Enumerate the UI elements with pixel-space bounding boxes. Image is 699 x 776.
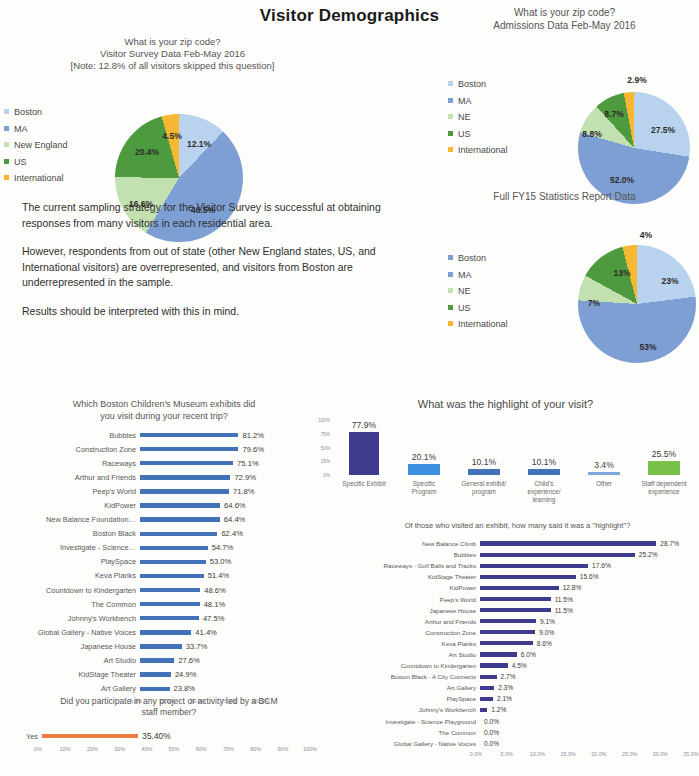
narrative-paragraph-1: The current sampling strategy for the Vi… <box>22 200 422 231</box>
bar-row: Bubbles25.2% <box>336 549 699 560</box>
vertical-bar-column: 20.1% <box>394 452 454 475</box>
category-label-line: experience <box>634 488 694 496</box>
pie-survey-value-us: 20.4% <box>135 147 159 157</box>
x-axis-tick: 100% <box>303 746 317 752</box>
pie-fy15-value-boston: 23% <box>661 276 678 286</box>
x-axis-tick: 20% <box>87 746 98 752</box>
vertical-bar <box>349 432 379 475</box>
bar-category-label: Investigate - Science Playground <box>336 718 480 725</box>
pie-admissions-value-boston: 27.5% <box>651 125 675 135</box>
bar-value-label: 48.6% <box>204 586 226 595</box>
bar-category-label: Countdown to Kindergarten <box>336 662 480 669</box>
bar-track: 9.1% <box>480 618 695 625</box>
bar-value-label: 9.1% <box>540 618 555 625</box>
legend-item-international: International <box>448 142 508 159</box>
legend-item-us: US <box>448 300 508 317</box>
bar-value-label: 64.4% <box>224 515 246 524</box>
bar-value-label: 2.3% <box>498 684 513 691</box>
bar-category-label: KidStage Theater <box>336 573 480 580</box>
bar-value-label: 79.6% <box>242 445 264 454</box>
bar-row: Construction Zone79.6% <box>14 442 314 456</box>
x-axis-tick: 80% <box>250 746 261 752</box>
bar-value-label: 33.7% <box>186 642 208 651</box>
x-axis-tick: 50% <box>169 746 180 752</box>
bar-category-label: The Common <box>336 729 480 736</box>
vertical-bar-value-label: 77.9% <box>334 420 394 430</box>
bar-row: New Balance Foundation…64.4% <box>14 513 314 527</box>
bar-value-label: 51.4% <box>208 571 230 580</box>
bar-row: Yes35.40% <box>14 728 324 744</box>
bar-fill <box>140 574 204 578</box>
bar-value-label: 47.5% <box>203 614 225 623</box>
highlight-exhibits-title-text: Of those who visited an exhibit, how man… <box>405 521 631 530</box>
bar-category-label: Johnny's Workbench <box>14 614 140 623</box>
legend-label-ma: MA <box>458 270 472 280</box>
bar-track: 72.9% <box>140 473 264 482</box>
legend-item-ne: NE <box>448 109 508 126</box>
bar-category-label: Peep's World <box>14 487 140 496</box>
category-label-line: General exhibit/ <box>454 480 514 488</box>
y-axis-tick: 25% <box>321 459 330 464</box>
bar-row: PlaySpace2.1% <box>336 693 699 704</box>
bar-value-label: 8.6% <box>537 640 552 647</box>
legend-swatch-ma <box>448 272 453 277</box>
pie-survey-legend: Boston MA New England US International <box>4 104 68 187</box>
bar-fill <box>480 652 517 656</box>
legend-swatch-ne <box>448 114 453 119</box>
bar-row: KidPower12.8% <box>336 582 699 593</box>
bar-row: Japanese House11.5% <box>336 605 699 616</box>
legend-item-new-england: New England <box>4 137 68 154</box>
bar-track: 2.7% <box>480 673 695 680</box>
category-label-line: experience/ <box>514 488 574 496</box>
bar-fill <box>480 586 559 590</box>
bar-fill <box>140 616 199 620</box>
bar-track: 2.3% <box>480 684 695 691</box>
pie-fy15-value-ne: 7% <box>588 298 600 308</box>
pie-admissions-title-line2: Admissions Data Feb-May 2016 <box>430 19 699 32</box>
bar-fill <box>140 687 170 691</box>
pie-admissions-value-ne: 8.8% <box>582 129 601 139</box>
bar-fill <box>480 553 635 557</box>
highlight-exhibits-title: Of those who visited an exhibit, how man… <box>336 520 699 532</box>
bar-track: 11.5% <box>480 607 695 614</box>
pie-survey-title-line2: Visitor Survey Data Feb-May 2016 <box>0 48 345 60</box>
narrative-paragraph-2: However, respondents from out of state (… <box>22 244 422 291</box>
legend-item-boston: Boston <box>448 76 508 93</box>
bar-category-label: New Balance Foundation… <box>14 515 140 524</box>
x-axis-tick: 15.0% <box>560 751 575 757</box>
x-axis-tick: 90% <box>277 746 288 752</box>
bar-fill <box>140 560 206 564</box>
vertical-bar-value-label: 25.5% <box>634 449 694 459</box>
vertical-bar-category-label: SpecificProgram <box>394 480 454 496</box>
bar-fill <box>480 663 508 667</box>
chart-highlight-exhibits: Of those who visited an exhibit, how man… <box>336 520 699 776</box>
bar-row: Boston Black62.4% <box>14 527 314 541</box>
legend-item-ne: NE <box>448 283 508 300</box>
bar-value-label: 72.9% <box>234 473 256 482</box>
pie-admissions-value-us: 8.7% <box>604 109 623 119</box>
bar-row: KidStage Theater15.6% <box>336 571 699 582</box>
bar-category-label: PlaySpace <box>336 695 480 702</box>
legend-item-ma: MA <box>4 121 68 138</box>
pie-fy15-value-us: 13% <box>613 268 630 278</box>
pie-fy15-title: Full FY15 Statistics Report Data <box>430 190 699 203</box>
legend-swatch-boston <box>448 81 453 86</box>
legend-item-boston: Boston <box>448 250 508 267</box>
bar-category-label: Art Gallery <box>14 684 140 693</box>
x-axis-tick: 30% <box>114 746 125 752</box>
bar-value-label: 62.4% <box>221 529 243 538</box>
bar-category-label: Peep's World <box>336 596 480 603</box>
x-axis-tick: 25.0% <box>622 751 637 757</box>
bcm-staff-title-line2: staff member? <box>14 707 324 718</box>
legend-label-us: US <box>14 157 27 167</box>
legend-item-international: International <box>448 316 508 333</box>
x-axis-tick: 5.0% <box>501 751 513 757</box>
bar-row: Japanese House33.7% <box>14 639 314 653</box>
category-label-line: Specific <box>394 480 454 488</box>
bar-track: 75.1% <box>140 459 264 468</box>
bar-value-label: 41.4% <box>195 628 217 637</box>
highlight-visit-title: What was the highlight of your visit? <box>312 398 699 410</box>
exhibits-visited-title: Which Boston Children's Museum exhibits … <box>14 398 314 422</box>
bar-fill <box>140 532 217 536</box>
legend-label-us: US <box>458 303 471 313</box>
